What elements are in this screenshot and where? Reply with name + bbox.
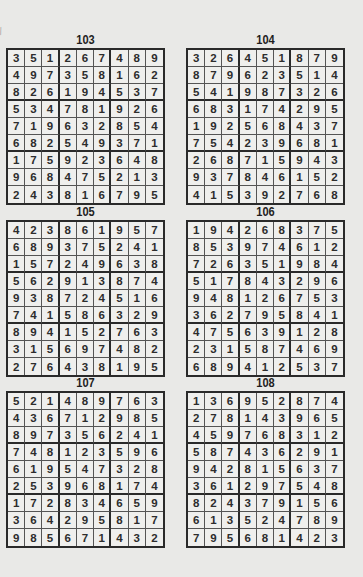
grid-cell: 4 [42, 101, 59, 118]
grid-cell: 8 [291, 393, 308, 410]
grid-cell: 2 [60, 50, 77, 67]
grid-cell: 6 [25, 512, 42, 529]
grid-cell: 6 [60, 341, 77, 358]
grid-cell: 5 [94, 169, 111, 186]
grid-cell: 1 [129, 290, 146, 307]
grid-cell: 7 [222, 273, 239, 290]
grid-cell: 6 [60, 529, 77, 546]
grid-cell: 7 [111, 186, 128, 203]
grid-cell: 7 [188, 256, 205, 273]
grid-cell: 9 [42, 239, 59, 256]
grid-cell: 2 [111, 169, 128, 186]
grid-cell: 9 [77, 84, 94, 101]
grid-cell: 6 [326, 495, 343, 512]
grid-cell: 7 [146, 84, 163, 101]
grid-cell: 2 [309, 84, 326, 101]
grid-cell: 9 [188, 461, 205, 478]
grid-cell: 7 [60, 410, 77, 427]
grid-cell: 4 [77, 256, 94, 273]
grid-cell: 8 [188, 495, 205, 512]
grid-cell: 2 [274, 186, 291, 203]
grid-cell: 2 [146, 67, 163, 84]
grid-cell: 4 [222, 135, 239, 152]
puzzle-number: 106 [198, 204, 333, 220]
grid-cell: 6 [25, 169, 42, 186]
grid-cell: 5 [309, 169, 326, 186]
grid-cell: 7 [77, 529, 94, 546]
grid-cell: 5 [94, 512, 111, 529]
grid-cell: 4 [274, 512, 291, 529]
grid-cell: 8 [205, 101, 222, 118]
grid-cell: 3 [291, 222, 308, 239]
grid-cell: 4 [309, 478, 326, 495]
grid-cell: 6 [188, 101, 205, 118]
grid-cell: 9 [240, 239, 257, 256]
grid-cell: 2 [222, 307, 239, 324]
grid-cell: 5 [291, 358, 308, 375]
grid-cell: 9 [94, 135, 111, 152]
grid-cell: 7 [205, 324, 222, 341]
grid-cell: 5 [60, 307, 77, 324]
grid-cell: 7 [188, 529, 205, 546]
grid-cell: 5 [111, 84, 128, 101]
grid-cell: 6 [146, 444, 163, 461]
grid-cell: 5 [25, 478, 42, 495]
grid-cell: 1 [205, 186, 222, 203]
grid-cell: 2 [291, 101, 308, 118]
grid-cell: 9 [146, 50, 163, 67]
grid-cell: 4 [326, 393, 343, 410]
grid-cell: 2 [94, 324, 111, 341]
grid-cell: 4 [94, 290, 111, 307]
grid-cell: 5 [94, 239, 111, 256]
grid-cell: 9 [257, 186, 274, 203]
grid-cell: 3 [205, 341, 222, 358]
grid-cell: 8 [25, 239, 42, 256]
grid-cell: 1 [60, 84, 77, 101]
grid-cell: 9 [25, 67, 42, 84]
grid-cell: 3 [42, 186, 59, 203]
grid-cell: 4 [111, 529, 128, 546]
grid-cell: 2 [188, 410, 205, 427]
grid-cell: 6 [326, 273, 343, 290]
grid-cell: 5 [129, 118, 146, 135]
grid-cell: 1 [8, 152, 25, 169]
grid-cell: 9 [205, 529, 222, 546]
grid-cell: 6 [129, 67, 146, 84]
grid-cell: 7 [8, 444, 25, 461]
grid-cell: 8 [8, 324, 25, 341]
grid-cell: 1 [205, 512, 222, 529]
grid-cell: 3 [8, 50, 25, 67]
grid-cell: 6 [309, 186, 326, 203]
grid-cell: 9 [42, 118, 59, 135]
grid-cell: 5 [222, 529, 239, 546]
grid-cell: 3 [188, 307, 205, 324]
grid-cell: 6 [291, 135, 308, 152]
grid-cell: 9 [8, 169, 25, 186]
grid-cell: 5 [111, 290, 128, 307]
grid-cell: 3 [291, 427, 308, 444]
grid-cell: 9 [111, 222, 128, 239]
grid-cell: 3 [240, 495, 257, 512]
grid-cell: 5 [205, 427, 222, 444]
grid-cell: 8 [205, 358, 222, 375]
grid-cell: 7 [257, 495, 274, 512]
grid-cell: 4 [146, 273, 163, 290]
grid-cell: 5 [326, 222, 343, 239]
puzzle-103: 103 351267489497358162826194537534781926… [6, 32, 165, 205]
grid-cell: 3 [222, 239, 239, 256]
grid-cell: 2 [291, 273, 308, 290]
grid-cell: 2 [77, 152, 94, 169]
grid-cell: 3 [257, 324, 274, 341]
grid-cell: 3 [309, 461, 326, 478]
grid-cell: 6 [291, 239, 308, 256]
grid-cell: 5 [129, 495, 146, 512]
grid-cell: 9 [222, 358, 239, 375]
grid-cell: 9 [326, 50, 343, 67]
grid-cell: 2 [205, 50, 222, 67]
grid-cell: 2 [111, 427, 128, 444]
grid-cell: 5 [257, 393, 274, 410]
grid-cell: 6 [274, 169, 291, 186]
grid-cell: 1 [257, 152, 274, 169]
puzzle-number: 108 [198, 375, 333, 391]
grid-cell: 1 [146, 239, 163, 256]
